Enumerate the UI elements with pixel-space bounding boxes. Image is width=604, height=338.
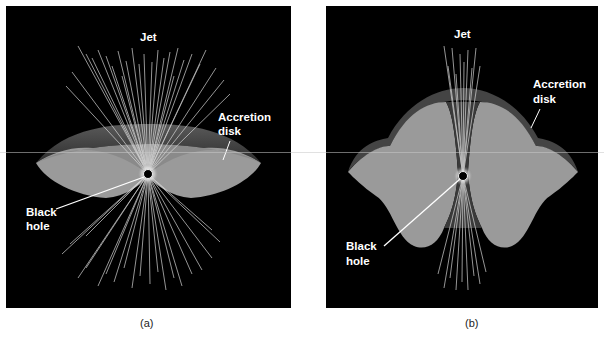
jet-label-a: Jet xyxy=(140,30,157,44)
disk-label-a-line1: Accretion xyxy=(218,110,271,124)
scan-artifact-line xyxy=(0,152,604,153)
black-hole-label-a-line1: Black xyxy=(26,205,57,219)
panel-b-thick-disk: Jet Accretion disk Black hole xyxy=(326,6,598,308)
caption-b: (b) xyxy=(465,317,478,329)
jet-label-b: Jet xyxy=(454,27,471,41)
disk-label-b-line1: Accretion xyxy=(533,77,586,91)
disk-label-b-line2: disk xyxy=(533,92,556,106)
disk-label-a-line2: disk xyxy=(218,124,241,138)
black-hole-label-b-line2: hole xyxy=(346,254,370,268)
black-hole-label-a-line2: hole xyxy=(26,219,50,233)
black-hole-label-b-line1: Black xyxy=(346,239,377,253)
panel-a-illustration xyxy=(6,6,291,308)
panel-a-thin-disk: Jet Accretion disk Black hole xyxy=(6,6,291,308)
disk-leader-b xyxy=(531,109,540,128)
black-hole-a xyxy=(144,170,153,179)
caption-a: (a) xyxy=(140,317,153,329)
